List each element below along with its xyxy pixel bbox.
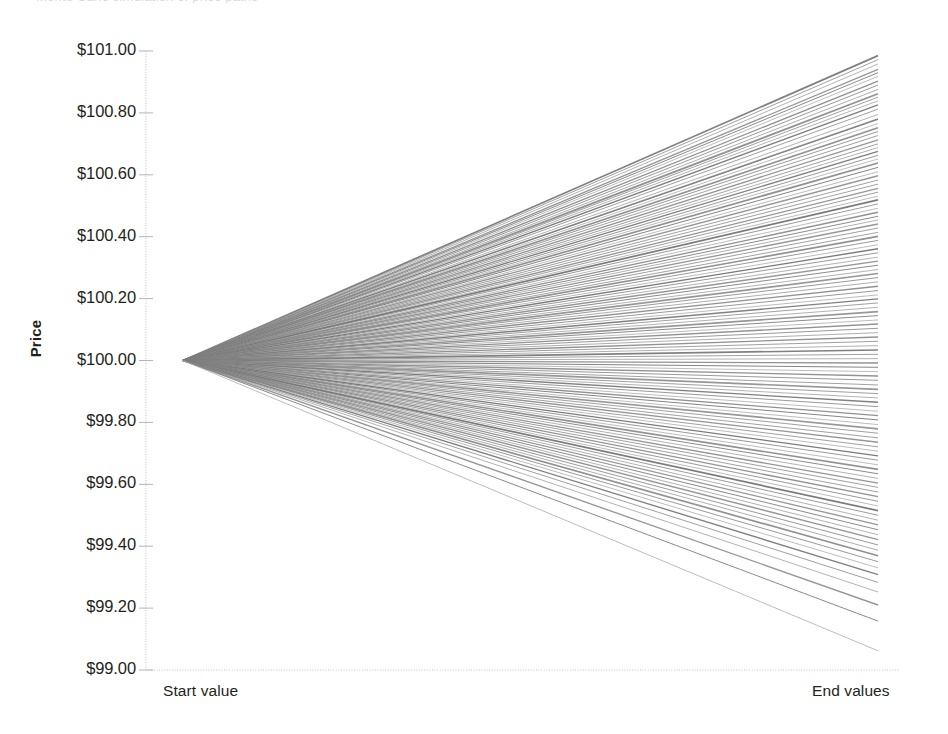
- x-tick-start-value: Start value: [163, 682, 238, 700]
- price-path-line: [183, 361, 878, 535]
- price-path-line: [183, 64, 878, 361]
- price-path-line: [183, 361, 878, 511]
- price-path-line: [183, 361, 878, 583]
- simulated-price-paths: [183, 56, 878, 651]
- plot-area: [0, 0, 948, 734]
- price-path-line: [183, 119, 878, 360]
- price-fan-chart: Monte Carlo simulation of price paths Pr…: [0, 0, 948, 734]
- x-tick-end-values: End values: [812, 682, 890, 700]
